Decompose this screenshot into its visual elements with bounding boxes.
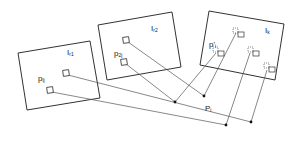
label-P-i: Pi: [205, 104, 211, 113]
frame-I-r1: [18, 41, 100, 110]
frame-I-r2: [98, 12, 181, 80]
feature-square-icon: [121, 59, 128, 66]
feature-square-icon: [63, 70, 70, 77]
3d-points: [174, 95, 253, 127]
feature-square-icon: [123, 37, 130, 44]
multi-view-projection-diagram: Ir1 Ir2 Ik plj p2j p'i Pi: [0, 0, 299, 142]
feature-square-icon: [47, 87, 54, 94]
